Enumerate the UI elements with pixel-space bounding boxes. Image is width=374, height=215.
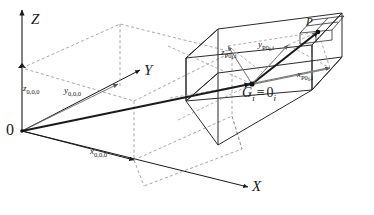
z-axis-label: Z — [31, 12, 39, 27]
global-origin-label: 0 — [6, 122, 14, 138]
global-offset-y-label: y0,0,0 — [64, 86, 81, 97]
global-offset-y-subscript: 0,0,0 — [68, 90, 81, 97]
construction-parallelogram-lower — [134, 116, 242, 186]
diagram-vector-layer — [0, 0, 374, 215]
local-offset-x-subscript: P0 — [301, 74, 308, 81]
y-axis-label: Y — [144, 63, 152, 78]
local-offset-x-subscript-tail: ,i — [310, 74, 313, 81]
global-offset-z-label: z0,0,0 — [23, 84, 40, 95]
construction-parallelogram-upper — [22, 24, 232, 101]
local-offset-y-subscript-tail: ,i — [271, 44, 274, 51]
z-axis-line — [18, 10, 26, 131]
diagram-canvas: Z Y X 0 z0,0,0 y0,0,0 x0,0,0 zP0i,i yP0i… — [0, 0, 374, 215]
x-axis-label: X — [252, 179, 261, 194]
local-origin-equivalence-label: Gi≡0i — [242, 86, 276, 103]
global-offset-x-label: x0,0,0 — [90, 147, 107, 158]
vector-origin-to-gi — [22, 84, 250, 131]
local-offset-y-label: yP0i,i — [258, 40, 274, 52]
global-offset-z-subscript: 0,0,0 — [27, 88, 40, 95]
equivalence-sign: ≡ — [255, 85, 267, 100]
local-offset-y-subscript: P0 — [262, 44, 269, 51]
local-zero-subscript: i — [274, 93, 277, 103]
local-offset-z-label: zP0i,i — [221, 48, 237, 60]
local-offset-x-label: xP0i,i — [297, 70, 313, 82]
x-offset-arrow — [22, 131, 134, 160]
perspective-guide-lines — [168, 46, 252, 120]
point-p-node — [316, 30, 321, 35]
point-p-label: P — [306, 16, 313, 27]
local-offset-z-subscript-tail: ,i — [233, 52, 236, 59]
local-construction-dashed — [228, 32, 330, 84]
local-zero-symbol: 0 — [267, 85, 274, 100]
local-origin-symbol: G — [242, 85, 252, 100]
global-origin-node — [20, 129, 24, 133]
global-offset-x-subscript: 0,0,0 — [94, 151, 107, 158]
